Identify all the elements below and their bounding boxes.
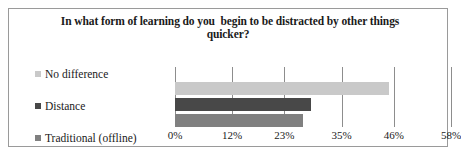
legend-swatch-distance [35,103,41,109]
legend-label-distance: Distance [45,99,85,113]
chart-title-line-2: quicker? [9,28,447,41]
chart-legend: No difference Distance Traditional (offl… [35,66,185,162]
plot-inner [175,67,451,127]
plot-area [167,67,451,127]
chart-frame: In what form of learning do you begin to… [8,8,448,147]
x-tick-label-46: 46% [384,129,404,141]
bar-row-distance [175,98,451,111]
bar-traditional-offline[interactable] [175,114,303,127]
x-tick-label-58: 58% [441,129,461,141]
legend-label-no-difference: No difference [45,67,108,81]
legend-swatch-traditional-offline [35,135,41,141]
bar-no-difference[interactable] [175,82,389,95]
x-tick-label-23: 23% [274,129,294,141]
legend-swatch-no-difference [35,71,41,77]
x-tick-label-35: 35% [331,129,351,141]
x-axis-tick-labels: 0%12%23%35%46%58% [167,129,451,145]
gridline-58 [451,67,452,127]
bar-distance[interactable] [175,98,311,111]
legend-item-traditional-offline: Traditional (offline) [35,130,185,146]
bar-row-no-difference [175,82,451,95]
legend-item-distance: Distance [35,98,185,114]
chart-title-line-1: In what form of learning do you begin to… [9,15,447,28]
bar-row-traditional-offline [175,114,451,127]
x-tick-label-12: 12% [222,129,242,141]
legend-item-no-difference: No difference [35,66,185,82]
x-tick-label-0: 0% [168,129,183,141]
legend-label-traditional-offline: Traditional (offline) [45,131,137,145]
chart-title: In what form of learning do you begin to… [9,15,447,41]
